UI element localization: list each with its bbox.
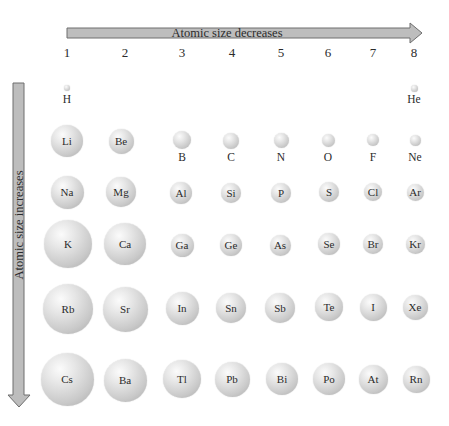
atom-sphere-po: Po bbox=[313, 363, 345, 395]
element-symbol: Li bbox=[62, 136, 72, 147]
atom-sphere-s: S bbox=[319, 182, 339, 202]
atom-sphere-i: I bbox=[360, 294, 387, 321]
group-number: 3 bbox=[179, 46, 186, 59]
atom-sphere-ge: Ge bbox=[220, 234, 242, 256]
element-symbol: At bbox=[368, 374, 379, 385]
vertical-arrow-label: Atomic size increases bbox=[12, 171, 25, 280]
element-symbol: H bbox=[63, 94, 71, 106]
atom-sphere-cs: Cs bbox=[41, 353, 94, 406]
element-symbol: Sb bbox=[274, 303, 286, 314]
element-symbol: I bbox=[371, 302, 375, 313]
group-number: 6 bbox=[325, 46, 332, 59]
atom-sphere-li: Li bbox=[51, 125, 83, 157]
atom-sphere-rn: Rn bbox=[403, 366, 430, 393]
atom-sphere-c bbox=[223, 133, 239, 149]
group-number: 7 bbox=[370, 46, 377, 59]
atom-sphere-al: Al bbox=[170, 182, 192, 204]
group-number: 5 bbox=[278, 46, 285, 59]
atom-sphere-sr: Sr bbox=[103, 287, 148, 332]
atom-sphere-bi: Bi bbox=[266, 363, 298, 395]
group-number: 8 bbox=[411, 46, 418, 59]
atom-sphere-ba: Ba bbox=[104, 359, 147, 402]
atom-sphere-se: Se bbox=[318, 233, 340, 255]
element-symbol: S bbox=[326, 187, 332, 198]
atom-sphere-f bbox=[367, 134, 379, 146]
atom-sphere-mg: Mg bbox=[106, 177, 136, 207]
atom-sphere-kr: Kr bbox=[406, 235, 425, 254]
element-symbol: Br bbox=[368, 239, 379, 250]
element-symbol: He bbox=[407, 94, 420, 106]
element-symbol: N bbox=[277, 152, 285, 164]
element-symbol: Be bbox=[115, 136, 127, 147]
atom-sphere-si: Si bbox=[221, 183, 241, 203]
element-symbol: Si bbox=[226, 188, 235, 199]
element-symbol: Tl bbox=[177, 374, 187, 385]
element-symbol: F bbox=[370, 152, 376, 164]
atom-sphere-as: As bbox=[270, 235, 291, 256]
element-symbol: Se bbox=[324, 239, 335, 250]
element-symbol: Sn bbox=[225, 303, 237, 314]
atom-sphere-in: In bbox=[166, 292, 199, 325]
atom-sphere-p: P bbox=[271, 183, 291, 203]
atom-sphere-xe: Xe bbox=[403, 295, 428, 320]
atom-sphere-o bbox=[322, 134, 335, 147]
element-symbol: Cl bbox=[368, 187, 378, 198]
atom-sphere-ne bbox=[410, 135, 421, 146]
element-symbol: C bbox=[227, 152, 235, 164]
atom-sphere-sn: Sn bbox=[216, 293, 246, 323]
element-symbol: Sr bbox=[120, 304, 130, 315]
element-symbol: P bbox=[278, 188, 284, 199]
atom-sphere-sb: Sb bbox=[265, 293, 295, 323]
element-symbol: Rb bbox=[62, 304, 75, 315]
atom-sphere-tl: Tl bbox=[163, 360, 201, 398]
element-symbol: Te bbox=[324, 302, 335, 313]
atom-sphere-ca: Ca bbox=[104, 223, 146, 265]
element-symbol: Ge bbox=[225, 240, 238, 251]
element-symbol: B bbox=[178, 152, 186, 164]
atom-sphere-ar: Ar bbox=[407, 184, 424, 201]
horizontal-arrow-label: Atomic size decreases bbox=[171, 27, 282, 40]
element-symbol: O bbox=[324, 152, 332, 164]
element-symbol: K bbox=[64, 239, 72, 250]
element-symbol: Ba bbox=[119, 375, 131, 386]
element-symbol: Ca bbox=[119, 239, 131, 250]
element-symbol: Ne bbox=[408, 152, 421, 164]
element-symbol: Xe bbox=[409, 302, 422, 313]
group-number: 2 bbox=[122, 46, 129, 59]
atom-sphere-be: Be bbox=[109, 129, 134, 154]
atomic-size-diagram: Atomic size decreases Atomic size increa… bbox=[0, 0, 449, 426]
atom-sphere-te: Te bbox=[315, 293, 343, 321]
atom-sphere-he bbox=[411, 85, 418, 92]
atom-sphere-rb: Rb bbox=[43, 284, 93, 334]
element-symbol: Ar bbox=[409, 187, 421, 198]
element-symbol: As bbox=[274, 240, 286, 251]
atom-sphere-ga: Ga bbox=[171, 234, 194, 257]
element-symbol: Pb bbox=[226, 374, 238, 385]
atom-sphere-na: Na bbox=[51, 176, 84, 209]
element-symbol: Rn bbox=[410, 374, 423, 385]
element-symbol: In bbox=[177, 303, 186, 314]
element-symbol: Mg bbox=[113, 187, 128, 198]
element-symbol: Na bbox=[61, 187, 74, 198]
atom-sphere-k: K bbox=[44, 220, 92, 268]
group-number: 4 bbox=[229, 46, 236, 59]
atom-sphere-cl: Cl bbox=[364, 183, 382, 201]
element-symbol: Cs bbox=[61, 374, 73, 385]
element-symbol: Bi bbox=[277, 374, 287, 385]
atom-sphere-at: At bbox=[359, 365, 388, 394]
atom-sphere-h bbox=[64, 85, 70, 91]
atom-sphere-pb: Pb bbox=[215, 362, 250, 397]
element-symbol: Kr bbox=[409, 239, 421, 250]
atom-sphere-br: Br bbox=[363, 234, 383, 254]
element-symbol: Ga bbox=[176, 240, 189, 251]
atom-sphere-n bbox=[274, 133, 289, 148]
atom-sphere-b bbox=[173, 131, 191, 149]
group-number: 1 bbox=[64, 46, 71, 59]
element-symbol: Al bbox=[176, 188, 187, 199]
element-symbol: Po bbox=[323, 374, 335, 385]
